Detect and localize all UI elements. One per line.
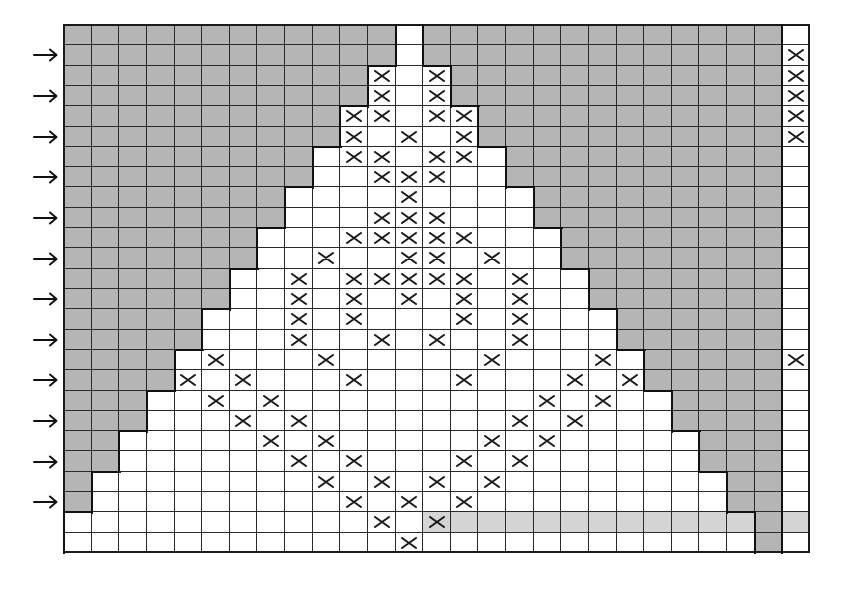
grid-cell (423, 167, 451, 187)
grid-cell (755, 370, 782, 391)
x-mark-icon (511, 313, 529, 325)
grid-cell (285, 86, 313, 106)
grid-cell (368, 451, 396, 472)
grid-cell (672, 66, 699, 86)
grid-cell (589, 472, 617, 492)
grid-cell (64, 472, 92, 492)
grid-cell (617, 330, 644, 350)
grid-cell (230, 512, 257, 533)
grid-cell (313, 451, 340, 472)
grid-cell (175, 248, 202, 269)
grid-cell (617, 228, 644, 248)
grid-cell (782, 66, 810, 86)
grid-cell (644, 45, 672, 66)
grid-cell (202, 431, 230, 451)
grid-cell (285, 411, 313, 431)
grid-cell (230, 248, 257, 269)
outline-segment (726, 471, 728, 514)
grid-cell (285, 45, 313, 66)
grid-cell (534, 411, 561, 431)
x-mark-icon (234, 374, 252, 386)
grid-cell (396, 411, 423, 431)
grid-cell (368, 187, 396, 208)
grid-cell (368, 147, 396, 167)
x-mark-icon (566, 415, 584, 427)
grid-cell (396, 269, 423, 289)
grid-cell (92, 533, 119, 553)
grid-cell (92, 106, 119, 127)
grid-cell (589, 512, 617, 533)
x-mark-icon (373, 273, 391, 285)
grid-cell (119, 492, 147, 512)
grid-cell (727, 248, 755, 269)
grid-cell (506, 512, 534, 533)
grid-cell (561, 208, 589, 228)
grid-cell (782, 248, 810, 269)
grid-cell (147, 472, 175, 492)
grid-cell (175, 269, 202, 289)
grid-cell (230, 411, 257, 431)
grid-cell (175, 66, 202, 86)
grid-cell (147, 492, 175, 512)
grid-cell (672, 492, 699, 512)
x-mark-icon (400, 273, 418, 285)
grid-cell (202, 350, 230, 370)
grid-cell (782, 127, 810, 147)
grid-cell (478, 269, 506, 289)
grid-cell (644, 492, 672, 512)
grid-cell (202, 45, 230, 66)
grid-cell (534, 127, 561, 147)
grid-cell (257, 451, 285, 472)
outline-segment (201, 308, 231, 310)
grid-cell (340, 25, 368, 45)
grid-cell (617, 431, 644, 451)
x-mark-icon (511, 455, 529, 467)
x-mark-icon (428, 273, 446, 285)
grid-cell (119, 248, 147, 269)
grid-cell (313, 472, 340, 492)
grid-cell (285, 147, 313, 167)
grid-cell (589, 25, 617, 45)
grid-cell (782, 533, 810, 553)
grid-cell (617, 269, 644, 289)
grid-cell (644, 289, 672, 309)
grid-cell (644, 167, 672, 187)
grid-cell (257, 66, 285, 86)
grid-cell (589, 370, 617, 391)
grid-cell (727, 411, 755, 431)
grid-cell (396, 330, 423, 350)
grid-cell (147, 187, 175, 208)
grid-cell (368, 533, 396, 553)
x-mark-icon (428, 334, 446, 346)
grid-cell (313, 127, 340, 147)
grid-cell (727, 370, 755, 391)
grid-cell (617, 66, 644, 86)
grid-cell (257, 289, 285, 309)
grid-cell (340, 248, 368, 269)
x-mark-icon (373, 90, 391, 102)
grid-cell (782, 330, 810, 350)
grid-cell (285, 512, 313, 533)
grid-cell (230, 25, 257, 45)
grid-cell (782, 411, 810, 431)
grid-cell (755, 269, 782, 289)
grid-cell (451, 187, 478, 208)
x-mark-icon (428, 151, 446, 163)
grid-cell (727, 208, 755, 228)
grid-cell (119, 147, 147, 167)
grid-cell (478, 45, 506, 66)
grid-cell (589, 66, 617, 86)
grid-cell (561, 187, 589, 208)
grid-cell (119, 533, 147, 553)
x-mark-icon (428, 110, 446, 122)
grid-cell (368, 309, 396, 330)
grid-cell (534, 533, 561, 553)
grid-cell (175, 86, 202, 106)
x-mark-icon (538, 435, 556, 447)
outline-segment (698, 430, 700, 473)
grid-cell (644, 472, 672, 492)
grid-cell (257, 492, 285, 512)
grid-cell (506, 309, 534, 330)
x-mark-icon (400, 191, 418, 203)
grid-cell (672, 269, 699, 289)
